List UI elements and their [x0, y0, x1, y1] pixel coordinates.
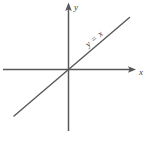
- coordinate-plane-figure: x y y = x: [0, 0, 150, 145]
- figure-canvas: x y y = x: [0, 0, 150, 145]
- line-y-equals-x: [14, 18, 130, 117]
- y-axis-label: y: [73, 2, 78, 12]
- x-axis-label: x: [138, 67, 143, 77]
- line-equation-label: y = x: [82, 28, 105, 49]
